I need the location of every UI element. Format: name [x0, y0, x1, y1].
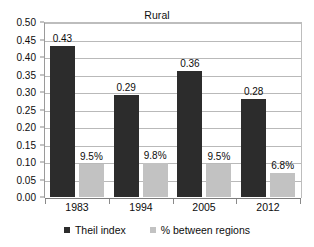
- x-tick-label-2005: 2005: [192, 201, 215, 213]
- x-tick-mark: [45, 199, 46, 204]
- bar-value-label: 0.43: [53, 33, 72, 44]
- y-tick-label: 0.00: [17, 192, 36, 203]
- y-tick-label: 0.30: [17, 87, 36, 98]
- bar-theil-index[interactable]: [177, 71, 202, 197]
- bar-group: 0.369.5%: [173, 22, 237, 197]
- x-tick-mark: [300, 199, 301, 204]
- bar-value-label: 9.8%: [144, 150, 167, 161]
- bar-theil-index[interactable]: [241, 99, 266, 197]
- bar-value-label: 0.36: [180, 58, 199, 69]
- bar-percent-between-regions[interactable]: [270, 173, 295, 197]
- y-tick-label: 0.25: [17, 105, 36, 116]
- chart-legend: Theil index% between regions: [0, 224, 314, 236]
- bar-value-label: 6.8%: [271, 160, 294, 171]
- bar-theil-index[interactable]: [114, 95, 139, 197]
- legend-label: % between regions: [161, 224, 250, 236]
- bar-percent-between-regions[interactable]: [143, 163, 168, 197]
- y-tick-label: 0.40: [17, 52, 36, 63]
- chart-title: Rural: [0, 9, 314, 21]
- bar-group: 0.286.8%: [236, 22, 300, 197]
- legend-label: Theil index: [75, 224, 126, 236]
- y-tick-label: 0.35: [17, 70, 36, 81]
- x-tick-label-1983: 1983: [65, 201, 88, 213]
- y-axis: 0.000.050.100.150.200.250.300.350.400.45…: [0, 22, 40, 197]
- bars-layer: 0.439.5%0.299.8%0.369.5%0.286.8%: [45, 22, 300, 197]
- x-axis: 1983199420052012: [45, 199, 300, 215]
- y-tick-label: 0.05: [17, 175, 36, 186]
- rural-bar-chart: Rural 0.000.050.100.150.200.250.300.350.…: [0, 0, 314, 247]
- bar-percent-between-regions[interactable]: [79, 164, 104, 197]
- y-tick-label: 0.15: [17, 140, 36, 151]
- bar-value-label: 0.29: [116, 82, 135, 93]
- bar-value-label: 0.28: [244, 86, 263, 97]
- legend-swatch-icon: [64, 227, 70, 233]
- x-tick-mark: [236, 199, 237, 204]
- y-tick-label: 0.45: [17, 35, 36, 46]
- x-tick-mark: [173, 199, 174, 204]
- legend-item-theil-index[interactable]: Theil index: [64, 224, 126, 236]
- bar-value-label: 9.5%: [80, 151, 103, 162]
- y-tick-label: 0.50: [17, 17, 36, 28]
- x-tick-mark: [109, 199, 110, 204]
- bar-theil-index[interactable]: [50, 46, 75, 197]
- y-tick-label: 0.20: [17, 122, 36, 133]
- x-tick-label-1994: 1994: [129, 201, 152, 213]
- bar-percent-between-regions[interactable]: [206, 164, 231, 197]
- legend-item-percent-between-regions[interactable]: % between regions: [150, 224, 250, 236]
- bar-group: 0.439.5%: [45, 22, 109, 197]
- x-tick-label-2012: 2012: [256, 201, 279, 213]
- y-tick-label: 0.10: [17, 157, 36, 168]
- legend-swatch-icon: [150, 227, 156, 233]
- bar-value-label: 9.5%: [207, 151, 230, 162]
- bar-group: 0.299.8%: [109, 22, 173, 197]
